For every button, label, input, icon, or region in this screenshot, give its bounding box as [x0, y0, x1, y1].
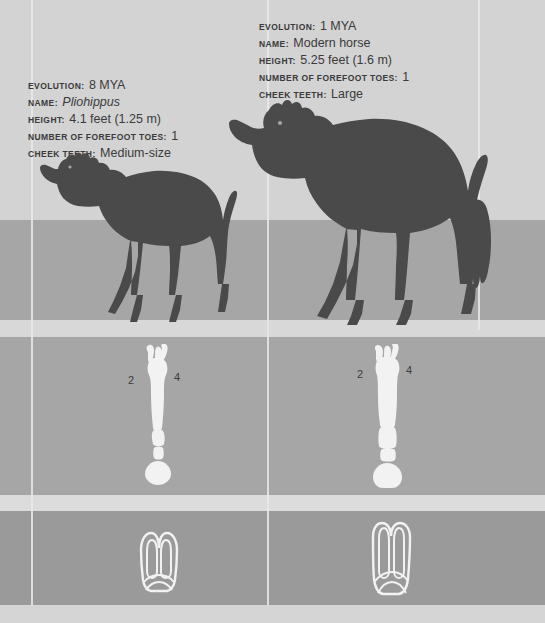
- digit-label-4: 4: [406, 364, 412, 376]
- specimen-info-modern-horse: EVOLUTION: 1 MYA NAME: Modern horse HEIG…: [259, 16, 409, 101]
- value-evolution: 8 MYA: [89, 78, 126, 92]
- horse-silhouette-modern-horse: [222, 92, 500, 325]
- cheek-tooth-pliohippus: [133, 528, 185, 596]
- label-name: NAME:: [259, 39, 289, 49]
- info-row-name: NAME: Pliohippus: [28, 92, 178, 109]
- label-forefoot-toes: NUMBER OF FOREFOOT TOES:: [259, 73, 398, 83]
- value-evolution: 1 MYA: [320, 19, 357, 33]
- background-band-bottom: [0, 605, 545, 623]
- value-forefoot-toes: 1: [171, 129, 178, 143]
- digit-label-2: 2: [357, 368, 363, 380]
- value-forefoot-toes: 1: [402, 70, 409, 84]
- value-name: Modern horse: [293, 36, 370, 50]
- digit-label-4: 4: [174, 371, 180, 383]
- label-evolution: EVOLUTION:: [259, 22, 315, 32]
- value-name: Pliohippus: [62, 95, 120, 109]
- label-name: NAME:: [28, 98, 58, 108]
- background-band-bones: [0, 337, 545, 495]
- specimen-info-pliohippus: EVOLUTION: 8 MYA NAME: Pliohippus HEIGHT…: [28, 75, 178, 160]
- label-forefoot-toes: NUMBER OF FOREFOOT TOES:: [28, 132, 167, 142]
- label-height: HEIGHT:: [259, 56, 296, 66]
- info-row-forefoot-toes: NUMBER OF FOREFOOT TOES: 1: [28, 126, 178, 143]
- info-row-name: NAME: Modern horse: [259, 33, 409, 50]
- value-height: 4.1 feet (1.25 m): [69, 112, 161, 126]
- cheek-tooth-modern-horse: [364, 519, 420, 599]
- forefoot-bone-pliohippus: 2 4 3: [126, 344, 188, 489]
- horse-evolution-infographic: EVOLUTION: 8 MYA NAME: Pliohippus HEIGHT…: [0, 0, 545, 623]
- info-row-forefoot-toes: NUMBER OF FOREFOOT TOES: 1: [259, 67, 409, 84]
- background-band-teeth: [0, 511, 545, 605]
- info-row-evolution: EVOLUTION: 1 MYA: [259, 16, 409, 33]
- info-row-height: HEIGHT: 4.1 feet (1.25 m): [28, 109, 178, 126]
- label-height: HEIGHT:: [28, 115, 65, 125]
- background-band-separator-lower: [0, 495, 545, 511]
- value-height: 5.25 feet (1.6 m): [300, 53, 392, 67]
- forefoot-bone-modern-horse: 2 4 3: [356, 344, 418, 489]
- label-evolution: EVOLUTION:: [28, 81, 84, 91]
- info-row-height: HEIGHT: 5.25 feet (1.6 m): [259, 50, 409, 67]
- digit-label-2: 2: [128, 374, 134, 386]
- info-row-evolution: EVOLUTION: 8 MYA: [28, 75, 178, 92]
